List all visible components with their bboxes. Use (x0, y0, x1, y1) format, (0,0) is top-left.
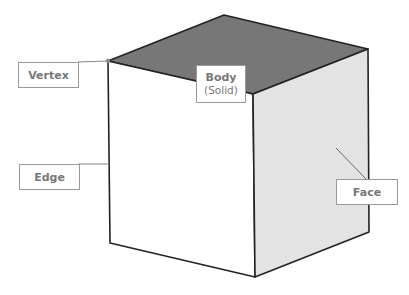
body-label-text: Body (206, 71, 237, 84)
edge-label-text: Edge (34, 171, 65, 184)
body-label: Body (Solid) (196, 65, 246, 103)
vertex-dot (106, 59, 110, 63)
vertex-label-text: Vertex (28, 69, 69, 82)
cube-diagram (0, 0, 409, 295)
face-label: Face (336, 179, 398, 205)
face-label-text: Face (353, 186, 381, 199)
vertex-label: Vertex (18, 62, 79, 88)
vertex-leader-line (78, 61, 108, 62)
edge-label: Edge (19, 164, 80, 190)
body-label-subtext: (Solid) (204, 84, 238, 97)
